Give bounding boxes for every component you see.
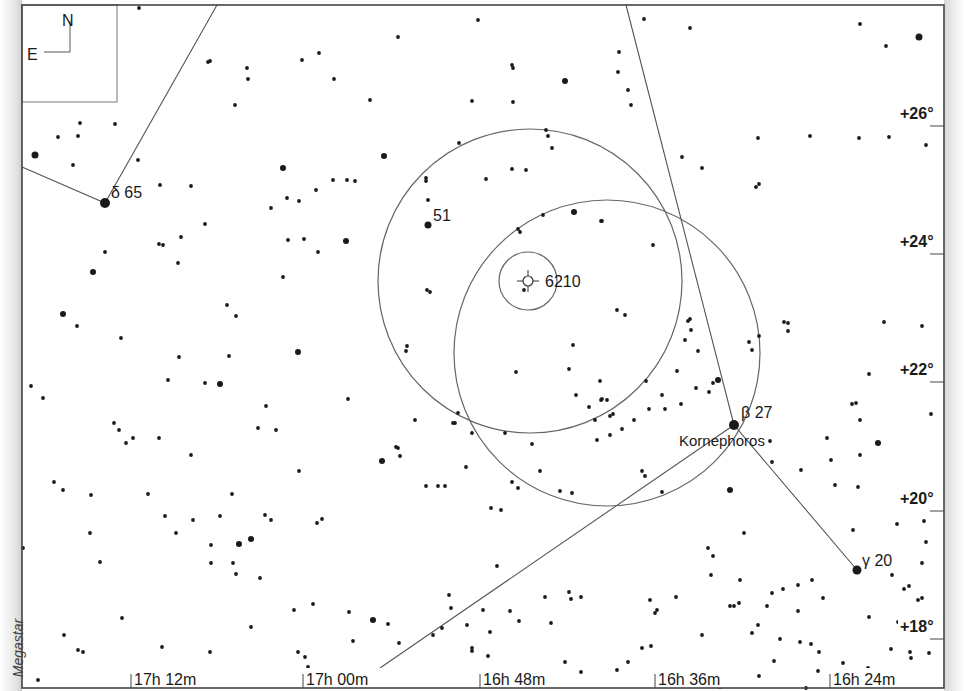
star — [317, 51, 321, 55]
star — [514, 370, 518, 374]
star — [511, 100, 515, 104]
star — [269, 518, 273, 522]
star — [786, 329, 790, 333]
star — [655, 608, 659, 612]
star — [320, 517, 324, 521]
star — [300, 58, 304, 62]
star — [617, 50, 621, 54]
star — [889, 647, 893, 651]
star — [882, 320, 886, 324]
star — [345, 178, 349, 182]
star — [227, 354, 231, 358]
star — [608, 414, 612, 418]
star — [750, 348, 754, 352]
star — [161, 243, 165, 247]
star — [61, 488, 65, 492]
star — [285, 196, 289, 200]
star — [81, 650, 85, 654]
star — [481, 608, 485, 612]
star — [605, 398, 609, 402]
star — [908, 650, 912, 654]
star — [679, 402, 683, 406]
star — [675, 369, 679, 373]
star — [742, 531, 746, 535]
star — [909, 656, 913, 660]
star — [781, 587, 785, 591]
star — [76, 648, 80, 652]
star — [157, 436, 161, 440]
star — [263, 513, 267, 517]
star — [649, 644, 653, 648]
star — [258, 576, 262, 580]
star — [558, 489, 562, 493]
star — [166, 378, 170, 382]
star — [209, 543, 213, 547]
dec-label: +22° — [900, 361, 934, 378]
star — [98, 560, 102, 564]
star — [189, 184, 193, 188]
ra-label: 17h 00m — [306, 671, 368, 688]
star — [29, 384, 33, 388]
star — [158, 183, 162, 187]
star — [117, 428, 121, 432]
bright-star — [425, 222, 432, 229]
star — [929, 412, 933, 416]
star — [303, 655, 307, 659]
star — [41, 396, 45, 400]
star — [157, 242, 161, 246]
star — [544, 128, 548, 132]
star — [297, 199, 301, 203]
star — [732, 604, 736, 608]
bright-star — [562, 78, 568, 84]
star — [470, 431, 474, 435]
compass-box: N E — [22, 5, 117, 102]
star — [829, 458, 833, 462]
star — [922, 519, 926, 523]
star — [103, 250, 107, 254]
dec-label: +26° — [900, 105, 934, 122]
star — [567, 367, 571, 371]
bright-star — [916, 34, 923, 41]
star — [453, 421, 457, 425]
star — [346, 397, 350, 401]
star — [296, 650, 300, 654]
star — [264, 404, 268, 408]
star — [124, 441, 128, 445]
star — [833, 483, 837, 487]
star — [858, 418, 862, 422]
star — [796, 583, 800, 587]
star — [394, 445, 398, 449]
bright-star — [280, 165, 286, 171]
star — [902, 587, 906, 591]
star — [208, 650, 212, 654]
star — [632, 418, 636, 422]
star — [231, 561, 235, 565]
star — [464, 465, 468, 469]
star — [203, 381, 207, 385]
star — [707, 390, 711, 394]
star — [518, 230, 522, 234]
star — [570, 491, 574, 495]
star — [465, 623, 469, 627]
chart-background — [22, 5, 944, 688]
star — [772, 659, 776, 663]
star — [174, 531, 178, 535]
star — [799, 468, 803, 472]
star — [510, 167, 514, 171]
bright-star — [381, 153, 387, 159]
star — [920, 561, 924, 565]
star — [867, 372, 871, 376]
star — [890, 573, 894, 577]
star — [476, 18, 480, 22]
star — [368, 98, 372, 102]
star — [431, 633, 435, 637]
star — [640, 646, 644, 650]
star — [579, 670, 583, 674]
star — [281, 275, 285, 279]
star — [56, 135, 60, 139]
star — [286, 238, 290, 242]
star — [549, 621, 553, 625]
star — [331, 178, 335, 182]
star — [457, 141, 461, 145]
star-chart[interactable]: 621051δ 65β 27Kornephorosγ 20 17h 12m17h… — [0, 0, 964, 691]
